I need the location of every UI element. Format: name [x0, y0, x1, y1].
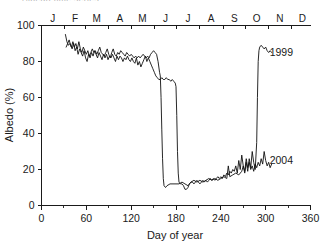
- albedo-figure: Albedo time series 060120180240300360 02…: [0, 0, 328, 248]
- month-label-j-5: J: [163, 13, 168, 24]
- y-tick-label: 100: [17, 19, 35, 31]
- x-tick-label: 300: [257, 212, 275, 224]
- month-label-j-6: J: [185, 13, 190, 24]
- albedo-line-chart: 060120180240300360 020406080100 JFMAMJJA…: [0, 0, 328, 248]
- month-label-f-1: F: [72, 13, 78, 24]
- month-label-m-2: M: [93, 13, 101, 24]
- month-label-a-3: A: [117, 13, 124, 24]
- y-axis-title: Albedo (%): [3, 88, 15, 142]
- month-label-n-10: N: [276, 13, 283, 24]
- x-axis-tick-labels: 060120180240300360: [39, 212, 320, 224]
- month-axis-labels: JFMAMJJASOND: [50, 13, 306, 24]
- month-label-o-9: O: [253, 13, 261, 24]
- x-tick-label: 360: [302, 212, 320, 224]
- series-inline-labels: 19992004: [270, 46, 294, 166]
- x-tick-label: 120: [122, 212, 140, 224]
- y-tick-label: 0: [29, 199, 35, 211]
- x-tick-label: 60: [80, 212, 92, 224]
- y-tick-label: 80: [23, 55, 35, 67]
- x-axis-title: Day of year: [147, 229, 204, 241]
- x-tick-label: 180: [167, 212, 185, 224]
- y-tick-label: 60: [23, 91, 35, 103]
- series-label-2004: 2004: [270, 154, 294, 166]
- month-label-m-4: M: [138, 13, 146, 24]
- month-label-a-7: A: [208, 13, 215, 24]
- data-series-group: [65, 35, 271, 190]
- y-tick-label: 20: [23, 163, 35, 175]
- month-label-j-0: J: [50, 13, 55, 24]
- x-tick-label: 0: [39, 212, 45, 224]
- month-label-s-8: S: [231, 13, 238, 24]
- y-axis-tick-labels: 020406080100: [17, 19, 35, 211]
- x-tick-label: 240: [212, 212, 230, 224]
- series-line-2004: [66, 40, 271, 189]
- y-tick-label: 40: [23, 127, 35, 139]
- month-label-d-11: D: [299, 13, 306, 24]
- series-label-1999: 1999: [270, 46, 294, 58]
